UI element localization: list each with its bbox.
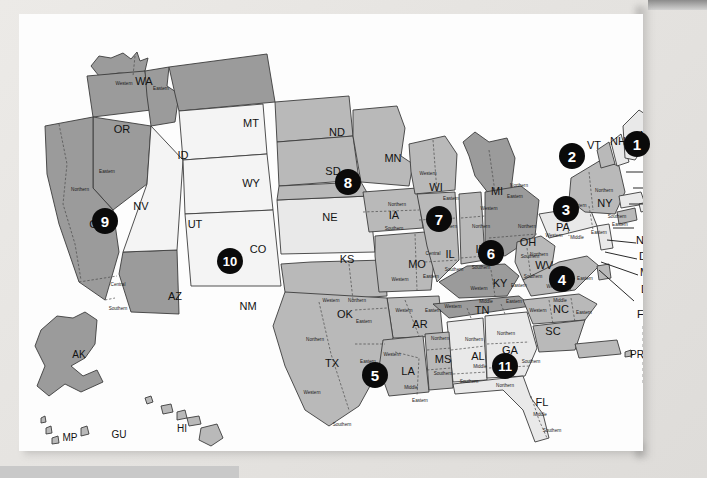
district-division-label: Central [111,282,126,287]
circuit-badge-4[interactable]: 4 [549,266,575,292]
circuit-badge-5[interactable]: 5 [362,362,388,388]
state-RI-shape [639,202,643,212]
district-division-label: Western [480,206,497,211]
district-division-label: Western [419,171,436,176]
district-division-label: Northern [71,187,89,192]
district-division-label: Middle [404,385,418,390]
state-label-az: AZ [168,290,182,302]
district-division-label: Western [545,233,562,238]
state-label-tx: TX [325,357,340,369]
district-division-label: Western [391,277,408,282]
district-division-label: Northern [388,202,406,207]
district-division-label: Southern [524,274,543,279]
state-label-wa: WA [135,75,153,87]
district-division-label: Western [470,286,487,291]
state-label-ne: NE [322,211,337,223]
territory-PR [575,340,621,358]
state-WY [179,104,267,160]
district-division-label: Eastern [612,222,628,227]
district-division-label: Southern [543,428,562,433]
district-division-label: Northern [510,183,528,188]
state-label-mn: MN [384,152,401,164]
state-label-nm: NM [239,300,256,312]
bottom-ui-bar [0,466,239,478]
territory-MP-b [46,426,52,434]
district-division-label: Northern [530,252,548,257]
circuit-badge-6[interactable]: 6 [478,240,504,266]
district-division-label: Central [426,251,441,256]
state-label-ar: AR [412,318,427,330]
district-division-label: Southern [472,265,491,270]
district-division-label: Eastern [443,196,459,201]
circuit-badge-9[interactable]: 9 [92,208,118,234]
district-division-label: Southern [522,359,541,364]
district-division-label: Southern [333,422,352,427]
district-division-label: Western [444,304,461,309]
state-label-al: AL [471,350,484,362]
district-division-label: Southern [385,226,404,231]
state-MN [353,106,413,186]
state-label-co: CO [250,243,267,255]
state-label-ok: OK [337,308,354,320]
page-top-edge-shadow [648,0,707,10]
territory-MP-a [41,416,46,423]
circuit-badge-7[interactable]: 7 [426,206,452,232]
district-division-label: Eastern [506,299,522,304]
district-division-label: Northern [431,336,449,341]
district-division-label: Eastern [412,398,428,403]
territory-label-gu: GU [112,429,127,440]
territory-HI-maui [187,416,201,426]
district-division-label: Southern [608,214,627,219]
circuit-badge-3[interactable]: 3 [553,196,579,222]
state-label-wy: WY [242,177,260,189]
circuit-badge-8[interactable]: 8 [335,169,361,195]
state-label-ny: NY [597,197,613,209]
district-division-label: Eastern [356,319,372,324]
circuit-badge-1[interactable]: 1 [624,131,650,157]
district-division-label: Northern [595,188,613,193]
state-label-nc: NC [553,303,569,315]
district-division-label: Northern [518,224,536,229]
district-division-label: Eastern [99,169,115,174]
state-label-sc: SC [545,325,560,337]
territory-HI-oahu [161,404,173,414]
district-division-label: Western [322,298,339,303]
district-division-label: Western [383,352,400,357]
circuit-badge-10[interactable]: 10 [217,248,243,274]
district-division-label: Eastern [507,194,523,199]
district-division-label: Southern [109,306,128,311]
map-document-root: WesternEasternEasternNorthernCentralSout… [0,0,707,478]
state-label-ky: KY [493,277,508,289]
callout-label-fed: FED [637,308,643,320]
district-division-label: Southern [460,379,479,384]
state-label-nv: NV [133,200,149,212]
callout-label-de: DE [639,250,643,262]
district-division-label: Eastern [153,86,169,91]
district-division-label: Middle [570,235,584,240]
callout-label-md: MD [640,266,643,278]
district-division-label: Western [395,308,412,313]
district-division-label: Eastern [577,276,593,281]
callout-label-nj: NJ [636,234,643,246]
circuit-badge-2[interactable]: 2 [559,143,585,169]
state-MI [463,132,515,194]
state-label-mt: MT [243,117,259,129]
state-shapes-layer [35,52,643,446]
state-label-pa: PA [556,221,571,233]
district-division-label: Middle [473,364,487,369]
state-label-oh: OH [520,236,537,248]
district-division-label: Northern [496,383,514,388]
state-label-ks: KS [340,253,355,265]
district-division-label: Eastern [591,230,607,235]
district-division-label: Eastern [423,274,439,279]
state-NJ-shape [597,224,613,250]
state-label-wv: WV [535,259,553,271]
state-KS [277,196,375,254]
state-label-vt: VT [587,139,601,151]
district-division-label: Western [115,81,132,86]
circuit-badge-11[interactable]: 11 [492,353,518,379]
district-division-label: Middle [533,412,547,417]
district-division-label: Western [303,390,320,395]
territory-GU [81,426,89,436]
district-division-label: Southern [434,371,453,376]
